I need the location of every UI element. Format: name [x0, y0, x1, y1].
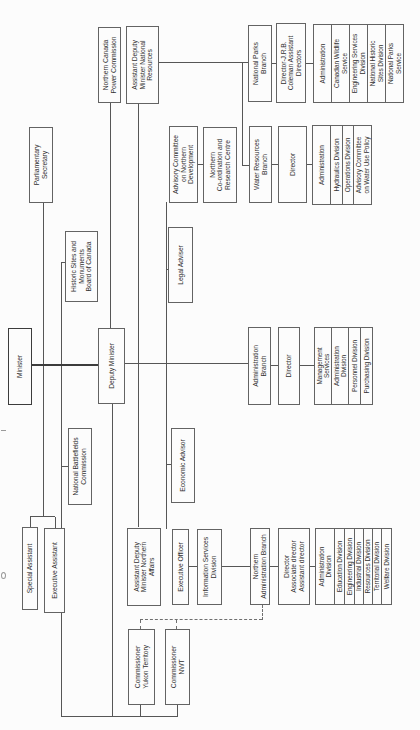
node-legal-adviser: Legal Adviser	[168, 227, 193, 303]
node-northern-admin-directors: Director Associate director Assistant di…	[278, 528, 310, 605]
node-national-battlefields-commission: National Battlefields Commission	[68, 428, 92, 505]
connector-line	[242, 165, 249, 166]
northern-admin-divisions: Administration Division Education Divisi…	[316, 528, 392, 605]
dashed-connector	[140, 620, 141, 629]
connector-line	[110, 103, 111, 328]
dashed-connector	[140, 619, 262, 620]
administration-divisions: Management Services Administration Divis…	[315, 327, 373, 405]
node-historic-sites-board: Historic Sites and Monuments Board of Ca…	[65, 231, 98, 302]
division-cell: Administration	[312, 125, 331, 205]
node-parliamentary-secretary: Parliamentary Secretary	[29, 127, 53, 203]
node-water-resources-branch: Water Resources Branch	[249, 126, 272, 203]
node-deputy-minister: Deputy Minister	[98, 328, 125, 404]
connector-line	[271, 365, 278, 366]
connector-line	[270, 566, 278, 567]
division-cell: Advisory Committee on Water Use Policy	[353, 125, 372, 205]
node-administration-branch: Administration Branch	[248, 327, 271, 405]
minister-deputy-line	[32, 364, 98, 366]
org-chart-canvas: Minister Special Assistant Executive Ass…	[0, 0, 420, 730]
node-advisory-committee-northern-development: Advisory Committee on Northern Developme…	[169, 126, 198, 203]
connector-line	[166, 202, 167, 529]
division-cell: Welfare Division	[381, 528, 392, 605]
connector-line	[43, 203, 44, 517]
connector-line	[138, 104, 139, 527]
node-adm-northern-affairs: Assistant Deputy Minister Northern Affai…	[127, 528, 161, 606]
node-economic-advisor: Economic Advisor	[171, 428, 195, 503]
connector-line	[159, 62, 242, 63]
connector-line	[222, 566, 250, 567]
division-cell: Purchasing Division	[360, 327, 373, 405]
node-commissioner-nwt: Commissioner NWT	[165, 629, 190, 705]
division-cell: Administration Division	[315, 528, 335, 605]
connector-line	[125, 363, 248, 364]
connector-line	[55, 517, 56, 528]
node-administration-director: Director	[278, 327, 300, 405]
node-executive-assistant: Executive Assistant	[44, 528, 65, 613]
node-national-parks-branch: National Parks Branch	[248, 25, 272, 102]
national-parks-divisions: Administration Canadian Wildlife Service…	[314, 24, 404, 103]
division-cell: Engineering Services Division	[349, 24, 368, 103]
connector-line	[242, 63, 243, 166]
connector-line	[189, 566, 197, 567]
node-northern-canada-power-commission: Northern Canada Power Commission	[98, 27, 121, 103]
connector-line	[300, 365, 315, 366]
division-cell: National Parks Service	[385, 24, 404, 103]
division-cell: Administration	[313, 24, 332, 103]
node-special-assistant: Special Assistant	[22, 527, 38, 610]
node-executive-officer: Executive Officer	[172, 529, 189, 605]
node-minister: Minister	[8, 328, 32, 405]
division-cell: National Historic Sites Division	[367, 24, 386, 103]
node-northern-coordination-research-centre: Northern Co-ordination and Research Cent…	[203, 127, 237, 203]
dashed-connector	[176, 620, 177, 629]
connector-line	[30, 516, 55, 517]
connector-line	[30, 517, 31, 527]
division-cell: Management Services	[314, 327, 332, 405]
connector-line	[61, 263, 62, 717]
connector-line	[112, 404, 113, 717]
node-information-services-division: Information Services Division	[197, 529, 222, 605]
node-commissioner-yukon: Commissioner Yukon Territory	[128, 629, 155, 705]
division-cell: Administration Division	[331, 327, 349, 405]
division-cell: Canadian Wildlife Service	[331, 24, 350, 103]
connector-line	[61, 716, 178, 717]
dashed-connector	[262, 605, 263, 620]
connector-line	[61, 466, 68, 467]
node-water-resources-director: Director	[278, 126, 307, 203]
node-northern-administration-branch: Northern Administration Branch	[250, 528, 270, 605]
water-resources-divisions: Administration Hydraulics Division Opera…	[313, 125, 372, 205]
node-adm-national-resources: Assistant Deputy Minister National Resou…	[126, 26, 159, 104]
scanned-org-chart-page: Minister Special Assistant Executive Ass…	[0, 0, 420, 730]
node-national-parks-director: Director-J.R.B. Coleman Assistant Direct…	[276, 23, 306, 103]
